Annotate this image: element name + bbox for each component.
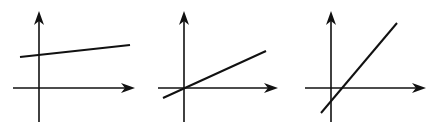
graph-2 (158, 11, 278, 122)
plotted-line (163, 51, 266, 98)
diagram-canvas (0, 0, 427, 132)
graph-1 (13, 11, 135, 122)
graph-3 (305, 11, 426, 122)
graphs-svg (0, 0, 427, 132)
plotted-line (20, 45, 130, 57)
plotted-line (321, 23, 397, 113)
